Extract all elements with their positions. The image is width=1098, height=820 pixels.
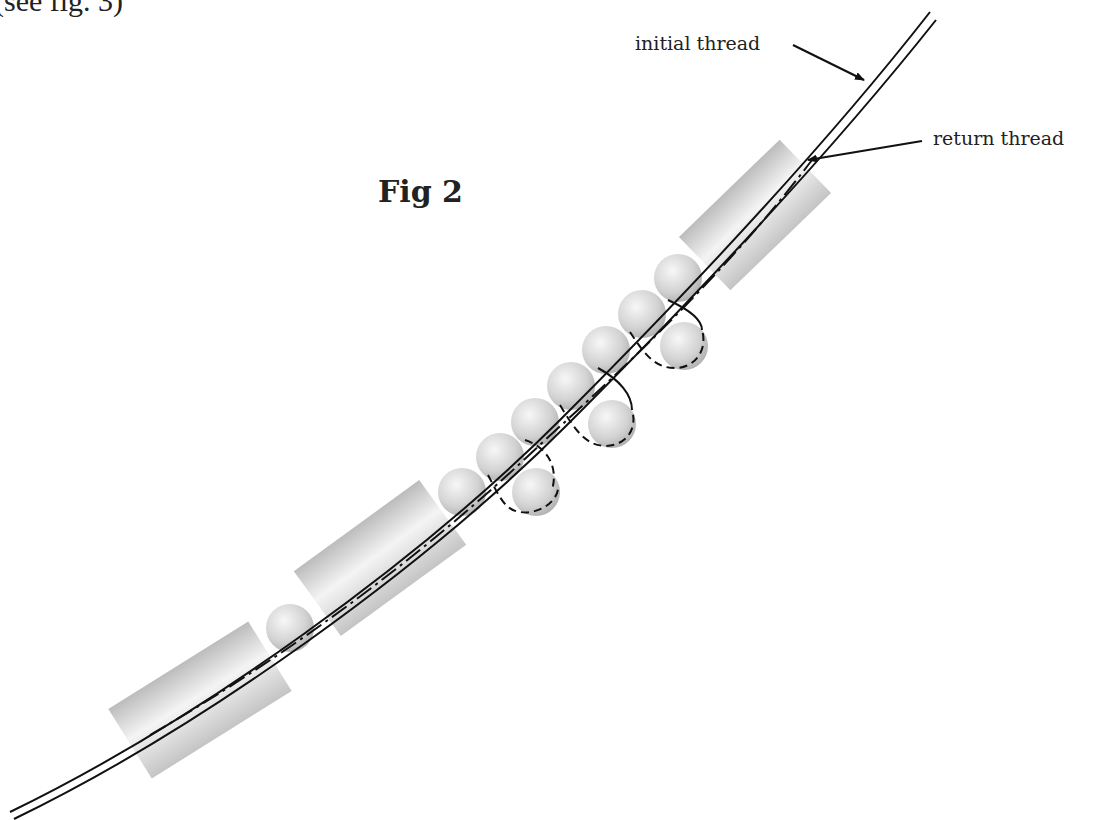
bugle-bead — [294, 480, 466, 636]
seed-bead — [660, 322, 708, 370]
return-thread-label: return thread — [933, 127, 1064, 149]
beading-diagram: initial thread return thread Fig 2 — [0, 0, 1098, 820]
figure-title: Fig 2 — [378, 174, 463, 209]
seed-bead — [588, 400, 636, 448]
initial-thread-label: initial thread — [635, 32, 760, 54]
initial-thread-arrow — [793, 45, 864, 80]
seed-bead — [512, 468, 560, 516]
seed-bead — [438, 468, 486, 516]
bugle-beads — [108, 140, 831, 779]
bugle-bead — [679, 140, 831, 290]
bugle-bead — [108, 622, 291, 779]
return-thread-arrow — [808, 141, 922, 160]
